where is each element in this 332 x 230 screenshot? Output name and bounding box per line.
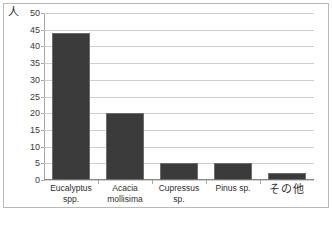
x-axis-category-label: Eucalyptusspp. <box>44 183 98 205</box>
x-axis-category-label: その他 <box>260 183 314 196</box>
x-axis-category-label: Pinus sp. <box>206 183 260 194</box>
y-axis-tick-label: 35 <box>30 59 40 68</box>
y-axis-tick-label: 25 <box>30 92 40 101</box>
bar-slot <box>260 13 314 180</box>
plot-area: 05101520253035404550 <box>44 13 314 180</box>
y-axis-tick-label: 10 <box>30 142 40 151</box>
bar[interactable] <box>268 173 306 180</box>
y-axis-tick-label: 50 <box>30 9 40 18</box>
bar-chart: 人 05101520253035404550 Eucalyptusspp.Aca… <box>0 0 332 230</box>
bar[interactable] <box>52 33 90 180</box>
bars-group <box>44 13 314 180</box>
x-axis-category-label: Cupressussp. <box>152 183 206 205</box>
y-axis-tick-label: 20 <box>30 109 40 118</box>
y-axis-tick-mark <box>41 180 44 181</box>
bar[interactable] <box>160 163 198 180</box>
bar-slot <box>98 13 152 180</box>
x-axis-labels: Eucalyptusspp.AcaciamollisimaCupressussp… <box>44 183 314 225</box>
bar-slot <box>44 13 98 180</box>
bar-slot <box>152 13 206 180</box>
bar-slot <box>206 13 260 180</box>
bar[interactable] <box>214 163 252 180</box>
x-axis-category-label: Acaciamollisima <box>98 183 152 205</box>
y-axis-tick-label: 15 <box>30 125 40 134</box>
bar[interactable] <box>106 113 144 180</box>
y-axis-unit-label: 人 <box>8 6 19 18</box>
y-axis-tick-label: 30 <box>30 75 40 84</box>
y-axis-tick-label: 0 <box>35 176 40 185</box>
y-axis-tick-label: 45 <box>30 25 40 34</box>
y-axis-tick-label: 40 <box>30 42 40 51</box>
gridline <box>44 180 314 181</box>
y-axis-tick-label: 5 <box>35 159 40 168</box>
